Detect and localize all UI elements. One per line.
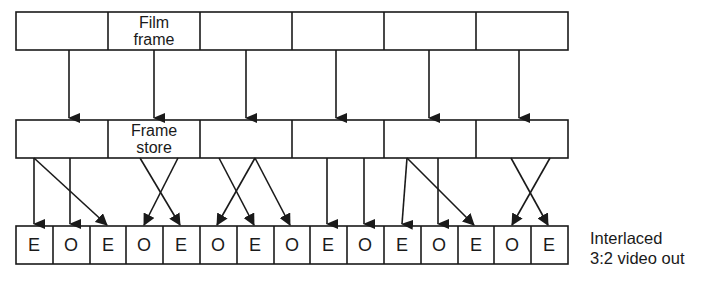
film-frame-row <box>16 12 568 50</box>
film-frame-label-line1: Film <box>108 14 200 31</box>
output-label-line1: Interlaced <box>590 228 685 248</box>
frame-store-label-line1: Frame <box>108 122 200 139</box>
frame-store-label-line2: store <box>108 139 200 156</box>
video-field: O <box>421 226 457 264</box>
video-field: O <box>200 226 236 264</box>
video-field: E <box>458 226 494 264</box>
video-field: O <box>347 226 383 264</box>
film-frame-label: Film frame <box>108 14 200 48</box>
store-to-video-arrows <box>34 158 550 225</box>
video-field: E <box>384 226 420 264</box>
film-frame-label-line2: frame <box>108 31 200 48</box>
frame-store-label: Frame store <box>108 122 200 156</box>
video-field: O <box>126 226 162 264</box>
video-field: O <box>494 226 530 264</box>
video-field: E <box>16 226 52 264</box>
video-field: E <box>90 226 126 264</box>
video-field: E <box>237 226 273 264</box>
film-to-store-arrows <box>69 50 519 118</box>
frame-store-row <box>16 120 568 158</box>
video-field: E <box>531 226 567 264</box>
output-label: Interlaced 3:2 video out <box>590 228 685 268</box>
video-field: E <box>310 226 346 264</box>
output-label-line2: 3:2 video out <box>590 248 685 268</box>
video-field: E <box>163 226 199 264</box>
video-field: O <box>53 226 89 264</box>
video-field: O <box>274 226 310 264</box>
